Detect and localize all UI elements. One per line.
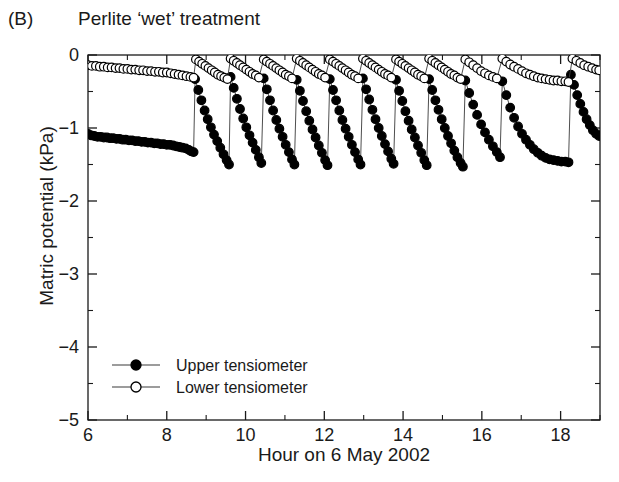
legend-label-1: Upper tensiometer — [176, 357, 308, 374]
data-point — [189, 73, 198, 82]
data-point — [368, 106, 377, 115]
data-point — [564, 158, 573, 167]
data-point — [407, 125, 416, 134]
data-point — [387, 73, 396, 82]
series-1 — [84, 70, 604, 171]
data-point — [278, 133, 287, 142]
data-point — [395, 87, 404, 96]
y-tick-label: −5 — [58, 410, 79, 430]
data-point — [341, 124, 350, 133]
data-point — [420, 74, 429, 83]
legend-marker-1 — [131, 360, 141, 370]
data-point — [189, 148, 198, 157]
data-point — [321, 73, 330, 82]
y-tick-label: −3 — [58, 264, 79, 284]
data-point — [269, 106, 278, 115]
data-point — [263, 85, 272, 94]
data-point — [411, 133, 420, 142]
data-point — [431, 96, 440, 105]
data-point — [510, 114, 519, 123]
data-point — [428, 86, 437, 95]
legend-marker-2 — [131, 382, 141, 392]
data-point — [459, 162, 468, 171]
data-point — [356, 160, 365, 169]
data-point — [434, 106, 443, 115]
data-point — [441, 124, 450, 133]
x-tick-label: 6 — [83, 425, 93, 445]
data-point — [564, 78, 573, 87]
data-point — [473, 111, 482, 120]
data-point — [378, 132, 387, 141]
data-point — [257, 159, 266, 168]
plot-area: 0−1−2−3−4−5681012141618Upper tensiometer… — [0, 0, 619, 482]
data-point — [255, 73, 264, 82]
data-point — [223, 75, 232, 84]
data-point — [200, 106, 209, 115]
data-point — [389, 160, 398, 169]
data-point — [576, 100, 585, 109]
data-point — [595, 132, 604, 141]
data-point — [275, 124, 284, 133]
data-point — [374, 124, 383, 133]
data-point — [362, 85, 371, 94]
figure-panel-b: (B) Perlite ‘wet’ treatment Matric poten… — [0, 0, 619, 482]
data-point — [332, 96, 341, 105]
data-point — [299, 97, 308, 106]
data-point — [290, 160, 299, 169]
data-point — [371, 115, 380, 124]
x-tick-label: 18 — [551, 425, 571, 445]
data-point — [437, 115, 446, 124]
data-point — [233, 95, 242, 104]
y-tick-label: −2 — [58, 191, 79, 211]
data-point — [506, 103, 515, 112]
data-point — [465, 89, 474, 98]
data-point — [288, 74, 297, 83]
x-tick-label: 10 — [236, 425, 256, 445]
data-point — [365, 95, 374, 104]
x-tick-label: 14 — [393, 425, 413, 445]
data-point — [496, 153, 505, 162]
y-tick-label: −4 — [58, 337, 79, 357]
data-point — [236, 105, 245, 114]
data-point — [595, 66, 604, 75]
data-point — [272, 116, 281, 125]
data-point — [354, 74, 363, 83]
data-point — [398, 97, 407, 106]
series-2 — [84, 54, 604, 86]
data-point — [469, 100, 478, 109]
y-tick-label: −1 — [58, 118, 79, 138]
data-point — [329, 86, 338, 95]
y-tick-label: 0 — [69, 45, 79, 65]
data-point — [344, 133, 353, 142]
data-point — [197, 96, 206, 105]
data-point — [502, 91, 511, 100]
data-point — [404, 116, 413, 125]
data-point — [422, 161, 431, 170]
data-point — [573, 91, 582, 100]
data-point — [456, 75, 465, 84]
data-point — [338, 116, 347, 125]
legend-label-2: Lower tensiometer — [176, 379, 308, 396]
x-tick-label: 12 — [314, 425, 334, 445]
data-point — [242, 123, 251, 132]
data-point — [308, 125, 317, 134]
x-tick-label: 8 — [162, 425, 172, 445]
data-point — [323, 161, 332, 170]
data-point — [194, 86, 203, 95]
data-point — [302, 107, 311, 116]
data-point — [311, 133, 320, 142]
data-point — [335, 106, 344, 115]
data-point — [229, 84, 238, 93]
data-point — [203, 115, 212, 124]
data-point — [401, 107, 410, 116]
data-point — [266, 96, 275, 105]
data-point — [239, 114, 248, 123]
data-point — [305, 116, 314, 125]
data-point — [296, 87, 305, 96]
data-point — [477, 120, 486, 129]
x-tick-label: 16 — [472, 425, 492, 445]
data-point — [225, 160, 234, 169]
data-point — [493, 74, 502, 83]
